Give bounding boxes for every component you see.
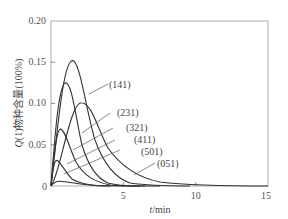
y-axis-title: Q(1)物种含量(100%) [12, 59, 25, 148]
y-tick-0: 0 [42, 181, 47, 192]
y-axis-title-rest: (1)物种含量(100%) [12, 59, 25, 141]
curve-411 [51, 129, 145, 186]
y-tick-0.20: 0.20 [29, 15, 47, 26]
chart-svg: 0.20 0.15 0.10 0.05 0 5 10 15 t/min Q(1)… [0, 0, 288, 219]
label-501: (501) [141, 146, 163, 158]
label-411: (411) [134, 134, 155, 146]
y-tick-0.05: 0.05 [29, 139, 47, 150]
label-051: (051) [157, 158, 179, 170]
x-axis-title: t/min [149, 204, 170, 215]
x-tick-5: 5 [121, 190, 126, 201]
y-ticks [51, 62, 55, 145]
label-141: (141) [109, 79, 131, 91]
chart: 0.20 0.15 0.10 0.05 0 5 10 15 t/min Q(1)… [0, 0, 288, 219]
label-321: (321) [126, 122, 148, 134]
label-231: (231) [117, 107, 139, 119]
y-tick-0.10: 0.10 [29, 97, 47, 108]
x-tick-15: 15 [261, 190, 271, 201]
x-tick-10: 10 [191, 190, 201, 201]
y-tick-0.15: 0.15 [29, 56, 47, 67]
x-axis-title-unit: /min [152, 204, 170, 215]
